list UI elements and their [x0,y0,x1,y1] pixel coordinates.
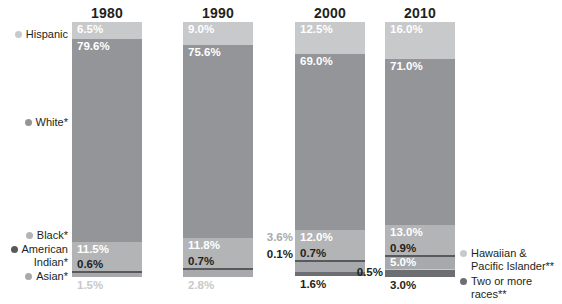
hawaiian-swatch-icon [460,250,467,257]
legend-label-two-or-more: Two or more races** [471,275,562,301]
legend-item-american-indian-line2: Indian* [0,256,68,269]
segment-white-2000: 69.0% [295,54,365,230]
year-label-1990: 1990 [183,5,253,21]
segment-two-or-more-2010: 3.0% [385,270,455,277]
year-label-2010: 2010 [385,5,455,21]
value-white-1980: 79.6% [77,40,110,53]
bar-column-1990: 9.0% 75.6% 11.8% 0.7% 2.8% [183,22,253,277]
segment-hispanic-1980: 6.5% [72,22,142,39]
value-asian-2000: 3.6% [267,231,293,244]
stacked-bar-chart: 1980 1990 2000 2010 6.5% 79.6% 11.5% 0.6… [0,0,562,304]
value-hispanic-2000: 12.5% [300,23,333,36]
legend-item-hawaiian: Hawaiian & Pacific Islander** [460,247,554,273]
value-asian-1990: 2.8% [188,279,214,292]
black-swatch-icon [26,232,33,239]
legend-label-american-indian-line1: American [22,243,68,255]
value-white-2000: 69.0% [300,55,333,68]
legend-label-hispanic: Hispanic [26,28,68,40]
segment-white-1990: 75.6% [183,45,253,238]
value-black-1980: 11.5% [77,243,109,256]
value-two-or-more-2000: 1.6% [300,278,326,291]
value-american-indian-2010: 0.9% [390,242,416,255]
legend-item-white: White* [0,116,68,129]
two-or-more-swatch-icon [460,278,467,285]
value-hispanic-1980: 6.5% [77,23,103,36]
segment-white-1980: 79.6% [72,39,142,242]
value-black-1990: 11.8% [188,239,220,252]
legend-label-black: Black* [37,229,68,241]
segment-asian-2000 [295,262,365,271]
legend-label-american-indian-line2: Indian* [34,256,68,268]
legend-label-hawaiian-line2: Pacific Islander** [471,260,554,273]
segment-asian-1980: 1.5% [72,273,142,277]
value-hispanic-1990: 9.0% [188,23,214,36]
value-two-or-more-2010: 3.0% [390,279,416,292]
value-asian-1980: 1.5% [77,279,103,292]
bar-column-2010: 16.0% 71.0% 13.0% 0.9% 5.0% 0.5% 3.0% [385,22,455,277]
legend-item-black: Black* [0,229,68,242]
value-hawaiian-2010: 0.5% [357,266,383,279]
legend-item-two-or-more: Two or more races** [460,275,562,301]
segment-hispanic-2000: 12.5% [295,22,365,54]
legend-item-american-indian: American [0,243,68,256]
asian-swatch-icon [25,273,32,280]
value-white-1990: 75.6% [188,46,221,59]
segment-white-2010: 71.0% [385,59,455,224]
american-indian-swatch-icon [11,246,18,253]
segment-two-or-more-2000: 1.6% [295,272,365,276]
hispanic-swatch-icon [15,31,22,38]
white-swatch-icon [25,119,32,126]
value-asian-2010: 5.0% [390,256,416,269]
segment-hispanic-2010: 16.0% [385,22,455,59]
year-label-2000: 2000 [295,5,365,21]
bar-column-2000: 12.5% 69.0% 12.0% 3.6% 0.7% 0.1% 1.6% [295,22,365,277]
value-american-indian-1980: 0.6% [77,258,103,271]
segment-hispanic-1990: 9.0% [183,22,253,45]
legend-label-hawaiian-line1: Hawaiian & [471,247,554,260]
value-black-2000: 12.0% [300,231,333,244]
legend-item-hispanic: Hispanic [0,28,68,41]
value-white-2010: 71.0% [390,60,423,73]
legend-label-white: White* [36,116,68,128]
legend-item-asian: Asian* [0,270,68,283]
segment-asian-2010: 5.0% 0.5% [385,257,455,269]
legend-label-asian: Asian* [36,270,68,282]
value-hispanic-2010: 16.0% [390,23,423,36]
value-hawaiian-2000: 0.1% [267,248,293,261]
value-black-2010: 13.0% [390,226,423,239]
bar-column-1980: 6.5% 79.6% 11.5% 0.6% 1.5% [72,22,142,277]
segment-asian-1990: 2.8% [183,270,253,277]
value-american-indian-1990: 0.7% [188,255,214,268]
value-american-indian-2000: 0.7% [300,247,326,260]
year-label-1980: 1980 [72,5,142,21]
